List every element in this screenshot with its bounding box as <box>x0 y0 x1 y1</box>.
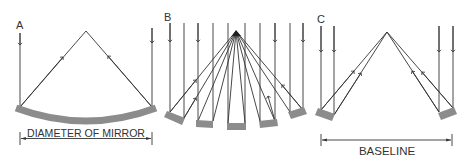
arrow-up-icon <box>282 85 303 110</box>
reflected-ray <box>236 31 275 121</box>
arrow-up-icon <box>412 71 439 112</box>
mirror-segment <box>196 120 213 128</box>
mirror-segment <box>288 107 307 119</box>
mirror-segment <box>164 111 185 125</box>
arrow-up-icon <box>268 96 275 121</box>
arrow-up-icon <box>20 57 63 107</box>
right-mirror <box>438 107 457 120</box>
reflected-ray <box>236 31 290 112</box>
baseline-label: BASELINE <box>359 145 416 157</box>
panel-a-label: A <box>16 19 24 31</box>
panel-c: C BASELINE <box>315 13 457 157</box>
panel-c-label: C <box>317 13 325 25</box>
reflected-ray <box>236 31 245 123</box>
focal-point <box>232 30 241 36</box>
curved-mirror <box>16 108 156 121</box>
arrow-up-icon <box>108 56 152 107</box>
reflected-ray <box>228 31 236 123</box>
arrow-up-icon <box>184 98 196 118</box>
diameter-label: DIAMETER OF MIRROR <box>27 127 145 139</box>
mirror-segment <box>259 119 278 128</box>
reflected-ray <box>198 31 236 121</box>
left-mirror <box>315 108 335 121</box>
arrow-up-icon <box>422 72 453 108</box>
arrow-up-icon <box>321 71 354 110</box>
panel-b-label: B <box>164 11 171 23</box>
arrow-up-icon <box>170 80 196 112</box>
panel-a: A DIAMETER OF MIRROR <box>16 19 156 145</box>
panel-b: B <box>164 11 307 130</box>
mirror-segment <box>227 123 246 130</box>
diagram-canvas: A DIAMETER OF MIRROR B <box>0 0 473 167</box>
